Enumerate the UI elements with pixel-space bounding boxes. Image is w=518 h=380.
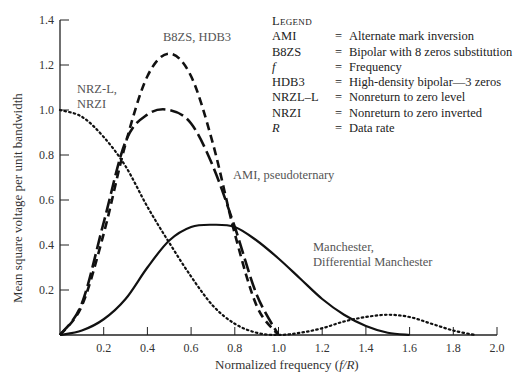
x-tick-label: 0.8	[227, 341, 242, 355]
legend-equals: =	[335, 90, 349, 105]
legend-item: HDB3=High-density bipolar—3 zeros	[272, 75, 512, 90]
legend-item: B8ZS=Bipolar with 8 zeros substitution	[272, 45, 512, 60]
legend-equals: =	[335, 121, 349, 136]
x-tick-label: 2.0	[490, 341, 505, 355]
legend-key: NRZL–L	[272, 90, 335, 105]
legend-key: R	[272, 121, 335, 136]
legend-key: NRZI	[272, 106, 335, 121]
label-nrz: NRZ-L, NRZI	[77, 82, 117, 112]
legend-equals: =	[335, 75, 349, 90]
x-tick-label: 1.0	[271, 341, 286, 355]
legend-desc: Bipolar with 8 zeros substitution	[349, 45, 512, 60]
legend-key: f	[272, 60, 335, 75]
legend-equals: =	[335, 106, 349, 121]
x-axis-label: Normalized frequency (f/R)	[215, 357, 359, 373]
legend-item: NRZI=Nonreturn to zero inverted	[272, 106, 512, 121]
y-axis-label: Mean square voltage per unit bandwidth	[10, 93, 26, 303]
x-tick-label: 1.6	[402, 341, 417, 355]
legend-desc: Nonreturn to zero inverted	[349, 106, 482, 121]
y-tick-label: 0.4	[39, 238, 54, 252]
legend-key: B8ZS	[272, 45, 335, 60]
legend-desc: High-density bipolar—3 zeros	[349, 75, 501, 90]
legend-title: Legend	[272, 14, 512, 29]
y-tick-label: 0.8	[39, 148, 54, 162]
x-tick-label: 1.2	[315, 341, 330, 355]
legend-item: AMI=Alternate mark inversion	[272, 29, 512, 44]
x-tick-label: 1.4	[358, 341, 373, 355]
legend-desc: Alternate mark inversion	[349, 29, 474, 44]
legend-equals: =	[335, 60, 349, 75]
x-tick-label: 0.2	[96, 341, 111, 355]
y-tick-label: 1.0	[39, 103, 54, 117]
y-tick-label: 0.2	[39, 283, 54, 297]
label-b8zs-hdb3: B8ZS, HDB3	[163, 30, 231, 45]
ami-curve	[60, 109, 279, 335]
y-tick-label: 1.2	[39, 58, 54, 72]
legend-key: AMI	[272, 29, 335, 44]
legend-key: HDB3	[272, 75, 335, 90]
x-tick-label: 0.6	[184, 341, 199, 355]
legend-equals: =	[335, 29, 349, 44]
label-ami: AMI, pseudoternary	[233, 168, 334, 183]
legend-desc: Frequency	[349, 60, 402, 75]
legend-equals: =	[335, 45, 349, 60]
legend-item: NRZL–L=Nonreturn to zero level	[272, 90, 512, 105]
legend-desc: Nonreturn to zero level	[349, 90, 465, 105]
legend: Legend AMI=Alternate mark inversionB8ZS=…	[272, 14, 512, 136]
legend-item: R=Data rate	[272, 121, 512, 136]
x-tick-label: 0.4	[140, 341, 155, 355]
label-manchester: Manchester, Differential Manchester	[313, 240, 433, 270]
y-tick-label: 1.4	[39, 13, 54, 27]
legend-item: f=Frequency	[272, 60, 512, 75]
legend-desc: Data rate	[349, 121, 394, 136]
y-tick-label: 0.6	[39, 193, 54, 207]
x-tick-label: 1.8	[446, 341, 461, 355]
